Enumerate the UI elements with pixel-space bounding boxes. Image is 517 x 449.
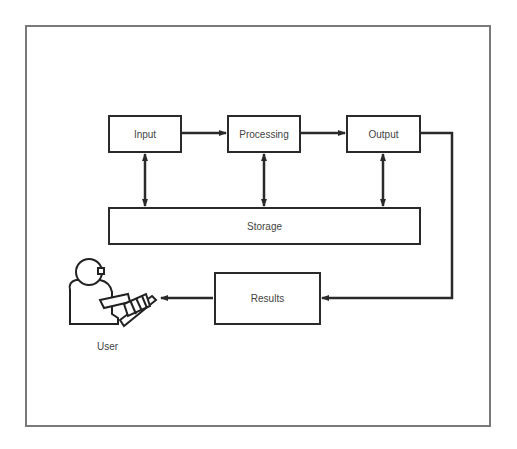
node-processing: Processing	[227, 115, 301, 153]
node-results-label: Results	[251, 293, 284, 304]
node-input: Input	[108, 115, 182, 153]
node-storage-label: Storage	[247, 221, 282, 232]
node-results: Results	[214, 272, 321, 325]
node-output-label: Output	[368, 129, 398, 140]
user-label: User	[97, 341, 118, 352]
node-output: Output	[346, 115, 421, 153]
node-storage: Storage	[108, 207, 421, 245]
node-input-label: Input	[134, 129, 156, 140]
node-processing-label: Processing	[239, 129, 288, 140]
user-at-keyboard-icon	[70, 259, 156, 326]
